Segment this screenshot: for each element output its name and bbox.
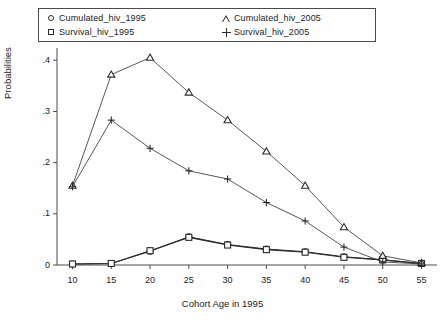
x-tick-label: 10 — [58, 276, 88, 285]
x-tick-label: 25 — [174, 276, 204, 285]
series-cumulated-hiv-1995 — [70, 234, 425, 267]
y-tick-label: .1 — [28, 209, 50, 218]
x-tick-label: 40 — [290, 276, 320, 285]
x-axis-label: Cohort Age in 1995 — [0, 298, 445, 309]
series-survival-hiv-1995 — [70, 234, 425, 267]
x-tick-label: 30 — [213, 276, 243, 285]
x-tick-label: 20 — [135, 276, 165, 285]
x-tick-label: 45 — [329, 276, 359, 285]
y-tick-label: .2 — [28, 158, 50, 167]
x-tick-label: 55 — [406, 276, 436, 285]
y-tick-label: 0 — [28, 261, 50, 270]
plot-area: Probabilities Cohort Age in 1995 0.1.2.3… — [0, 0, 445, 320]
chart-figure: Cumulated_hiv_1995 Survival_hiv_1995 Cum… — [0, 0, 445, 320]
x-tick-label: 15 — [96, 276, 126, 285]
series-cumulated-hiv-2005 — [69, 54, 425, 265]
chart-canvas — [0, 0, 445, 320]
y-axis-label: Probabilities — [2, 28, 13, 118]
y-tick-label: .4 — [28, 56, 50, 65]
series-survival-hiv-2005 — [69, 117, 425, 268]
x-tick-label: 50 — [368, 276, 398, 285]
y-tick-label: .3 — [28, 107, 50, 116]
x-tick-label: 35 — [251, 276, 281, 285]
